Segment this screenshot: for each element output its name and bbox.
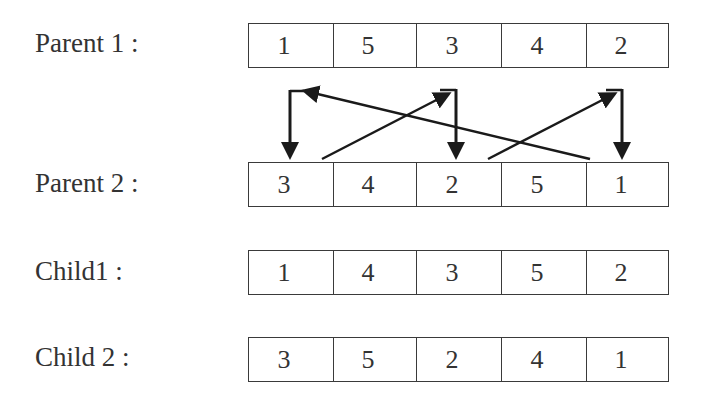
parent1-cell-2: 5	[334, 24, 417, 67]
parent1-cell-5: 2	[587, 24, 669, 67]
child2-cell-2: 5	[334, 338, 417, 381]
parent1-cell-1: 1	[249, 24, 334, 67]
parent1-label: Parent 1 :	[35, 27, 138, 59]
parent2-cell-4: 5	[502, 163, 587, 206]
child2-cell-5: 1	[587, 338, 669, 381]
parent1-array: 1 5 3 4 2	[248, 23, 669, 68]
parent2-cell-2: 4	[334, 163, 417, 206]
parent2-array: 3 4 2 5 1	[248, 162, 669, 207]
child1-cell-2: 4	[334, 251, 417, 294]
child2-label: Child 2 :	[35, 341, 130, 373]
child2-cell-3: 2	[417, 338, 502, 381]
child1-cell-4: 5	[502, 251, 587, 294]
arrow-cycle-2	[322, 89, 456, 159]
diagonal-arrow-icon	[322, 94, 448, 159]
child1-array: 1 4 3 5 2	[248, 250, 669, 295]
parent2-label: Parent 2 :	[35, 167, 138, 199]
child2-cell-4: 4	[502, 338, 587, 381]
parent2-cell-3: 2	[417, 163, 502, 206]
child2-cell-1: 3	[249, 338, 334, 381]
arrow-cycle-3	[488, 89, 622, 159]
child1-label: Child1 :	[35, 255, 123, 287]
parent2-cell-5: 1	[587, 163, 669, 206]
parent2-cell-1: 3	[249, 163, 334, 206]
child2-array: 3 5 2 4 1	[248, 337, 669, 382]
diagonal-arrow-icon	[488, 94, 614, 159]
child1-cell-3: 3	[417, 251, 502, 294]
arrow-cycle-1	[290, 90, 590, 159]
parent1-cell-4: 4	[502, 24, 587, 67]
parent1-cell-3: 3	[417, 24, 502, 67]
child1-cell-5: 2	[587, 251, 669, 294]
child1-cell-1: 1	[249, 251, 334, 294]
diagonal-arrow-icon	[305, 91, 590, 159]
